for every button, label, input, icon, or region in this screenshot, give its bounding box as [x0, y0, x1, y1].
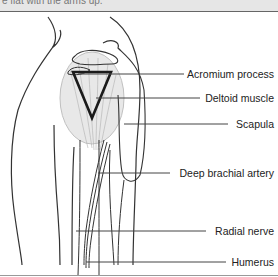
divider [0, 275, 278, 276]
deltoid-muscle-drawing [60, 52, 124, 150]
label-humerus: Humerus [231, 256, 274, 268]
label-scapula: Scapula [236, 118, 274, 130]
label-acromium-process: Acromium process [187, 68, 274, 80]
label-deltoid-muscle: Deltoid muscle [205, 92, 274, 104]
humerus-and-nerves [78, 140, 124, 275]
arm-outline [11, 17, 140, 265]
label-deep-brachial-artery: Deep brachial artery [179, 167, 274, 179]
label-radial-nerve: Radial nerve [215, 225, 274, 237]
